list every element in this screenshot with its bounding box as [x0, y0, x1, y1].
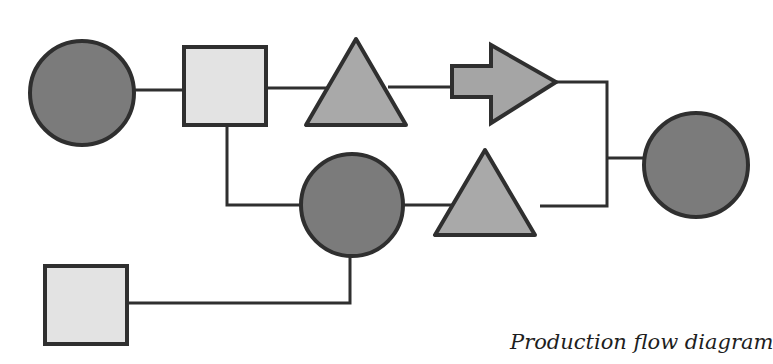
- square-1-node: [184, 47, 266, 125]
- circle-2-node: [301, 154, 403, 256]
- triangle-1-node: [306, 39, 406, 125]
- circle-3-node: [644, 113, 748, 217]
- connector-arrow1-to-junction: [540, 82, 607, 206]
- arrow-1-node: [452, 45, 556, 123]
- square-2-node: [45, 266, 127, 344]
- production-flow-diagram: [0, 0, 773, 364]
- connector-square1-to-circle2: [227, 125, 301, 205]
- triangle-2-node: [435, 150, 535, 235]
- diagram-caption: Production flow diagram: [510, 330, 773, 354]
- diagram-nodes: [30, 39, 748, 344]
- connector-circle2-to-square2: [127, 256, 350, 303]
- circle-1-node: [30, 41, 134, 145]
